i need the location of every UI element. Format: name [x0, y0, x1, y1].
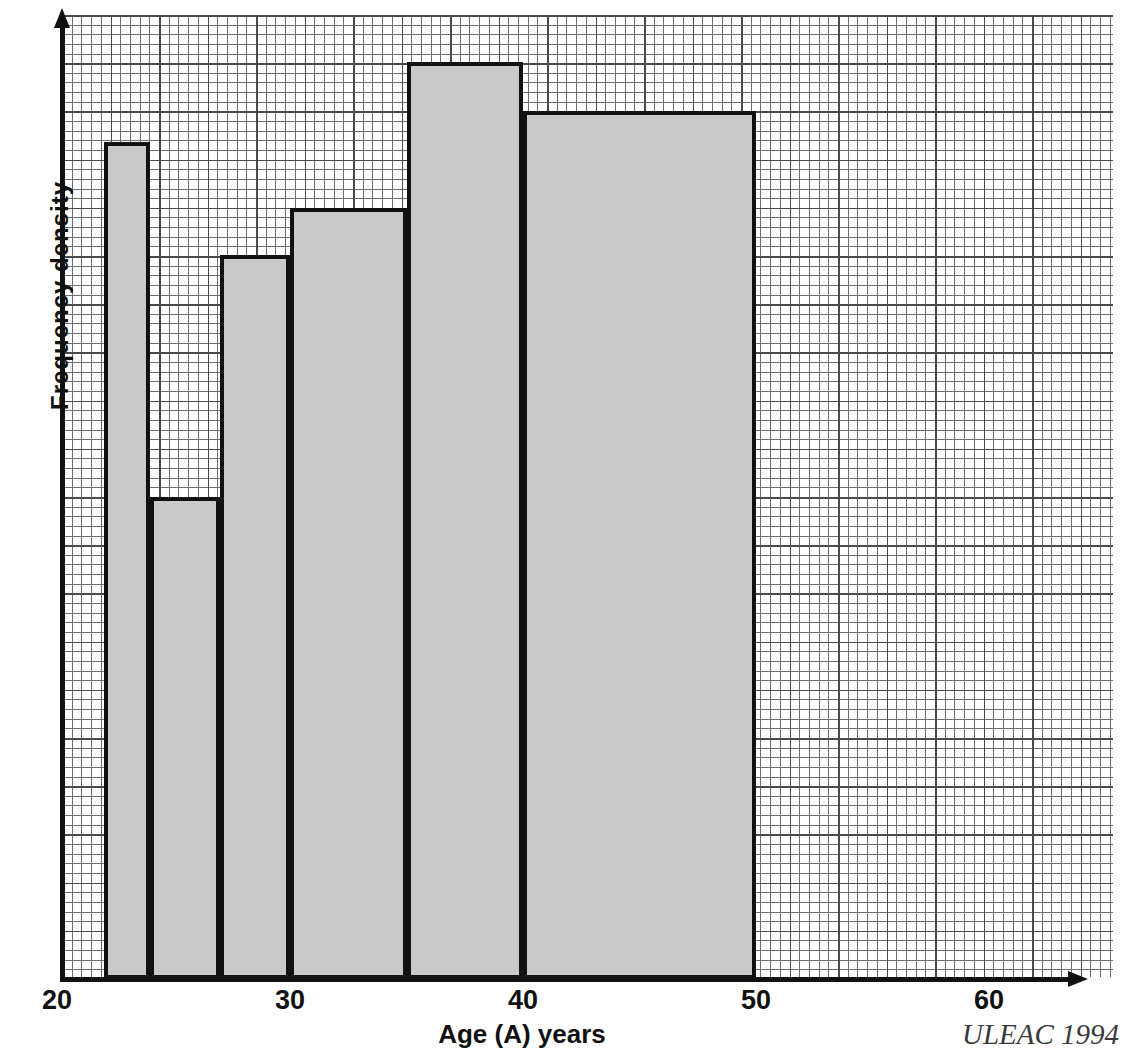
- x-axis-tick-40: 40: [508, 985, 538, 1016]
- x-axis-title: Age (A) years: [438, 1019, 606, 1050]
- histogram-bar: [290, 208, 407, 979]
- x-axis-tick-30: 30: [275, 985, 305, 1016]
- histogram-bar: [104, 142, 151, 979]
- x-axis-tick-20: 20: [42, 985, 72, 1016]
- y-axis-arrow-icon: [54, 8, 70, 28]
- x-axis-tick-50: 50: [741, 985, 771, 1016]
- source-credit: ULEAC 1994: [962, 1018, 1119, 1051]
- x-axis-tick-60: 60: [974, 985, 1004, 1016]
- histogram-bar: [407, 62, 524, 979]
- histogram-bar: [523, 111, 756, 979]
- histogram-bar: [150, 497, 220, 979]
- y-axis-title: Frequency density: [46, 181, 74, 410]
- y-axis-line: [60, 26, 65, 982]
- x-axis-arrow-icon: [1068, 971, 1088, 987]
- histogram-bar: [220, 255, 290, 979]
